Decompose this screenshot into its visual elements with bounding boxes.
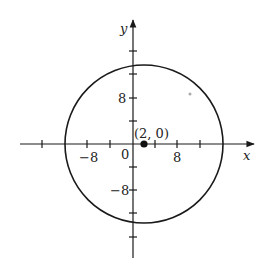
x-tick-label-neg8: −8 <box>79 150 98 165</box>
center-point <box>140 140 147 147</box>
coordinate-plane: (2, 0) x y 0 −8 8 8 −8 <box>0 0 261 278</box>
y-tick-label-neg8: −8 <box>110 183 129 198</box>
stray-dot <box>189 93 192 96</box>
center-label: (2, 0) <box>134 126 169 141</box>
y-tick-label-8: 8 <box>118 91 126 106</box>
y-axis-label: y <box>119 21 128 36</box>
origin-label: 0 <box>121 147 129 162</box>
x-axis-label: x <box>243 148 251 163</box>
x-tick-label-8: 8 <box>173 150 181 165</box>
